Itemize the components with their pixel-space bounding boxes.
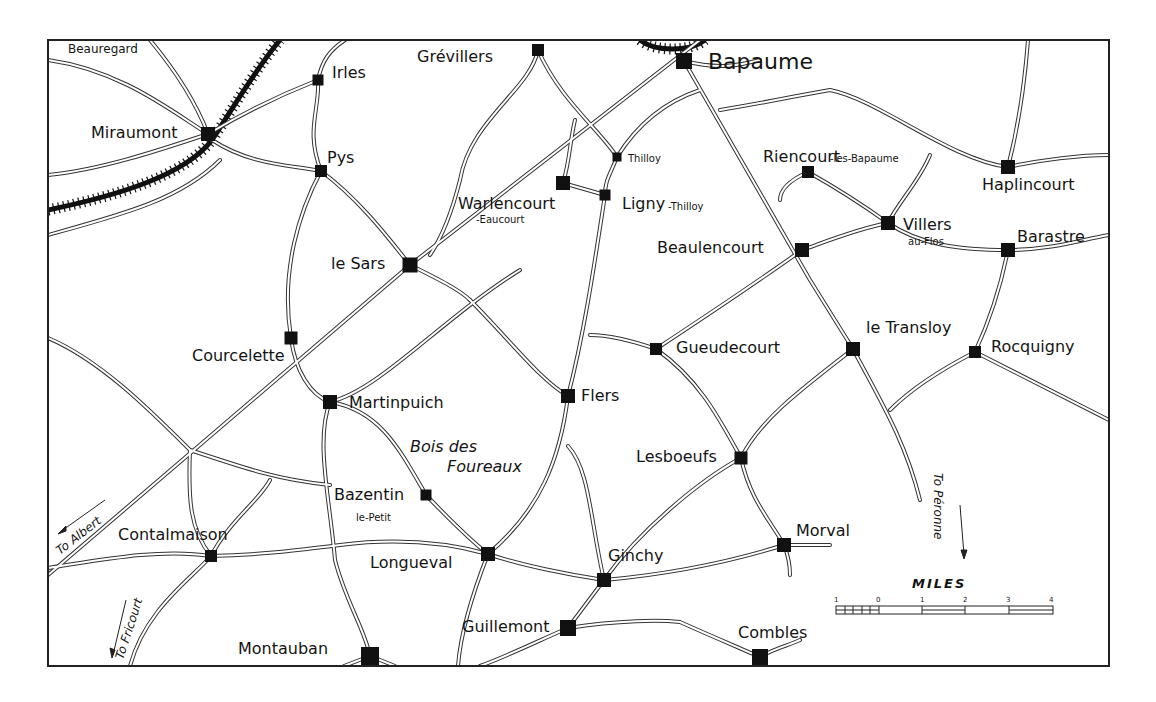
- town-marker-morval: [777, 538, 791, 552]
- scale-tick-2: 2: [963, 596, 967, 604]
- map-canvas: BapaumeGrévillersIrlesMiraumontPysThillo…: [0, 0, 1156, 702]
- town-marker-miraumont: [201, 127, 215, 141]
- road-36: [590, 335, 656, 349]
- scale-title: MILES: [912, 576, 966, 591]
- town-label-villers: Villers: [903, 215, 952, 234]
- town-marker-irles: [313, 75, 324, 86]
- to-fricourt-label: To Fricourt: [113, 595, 146, 661]
- road-6: [212, 140, 321, 171]
- town-label-le-transloy: le Transloy: [866, 318, 951, 337]
- road-44: [330, 402, 488, 554]
- town-marker-beaulencourt: [795, 243, 809, 257]
- town-label-combles: Combles: [738, 623, 807, 642]
- town-marker-haplincourt: [1001, 160, 1015, 174]
- road-fill-13: [470, 300, 568, 396]
- town-marker-thilloy: [613, 153, 622, 162]
- road-56: [130, 556, 211, 666]
- town-sublabel-ligny: -Thilloy: [668, 201, 704, 212]
- town-sublabel-riencourt: -les-Bapaume: [830, 153, 899, 164]
- town-label-haplincourt: Haplincourt: [982, 175, 1075, 194]
- road-49: [458, 554, 488, 666]
- town-label-miraumont: Miraumont: [91, 123, 178, 142]
- town-label-morval: Morval: [796, 521, 850, 540]
- town-label-warlencourt: Warlencourt: [458, 194, 555, 213]
- town-label-gueudecourt: Gueudecourt: [676, 338, 780, 357]
- town-sublabel-bazentin: le-Petit: [356, 512, 391, 523]
- town-label-contalmaison: Contalmaison: [118, 525, 228, 544]
- town-marker-ligny: [600, 190, 611, 201]
- town-label-longueval: Longueval: [370, 553, 452, 572]
- town-label-guillemont: Guillemont: [462, 617, 550, 636]
- town-marker-guillemont: [560, 620, 576, 636]
- town-marker-martinpuich: [323, 395, 337, 409]
- road-fill-37: [656, 349, 741, 458]
- town-label-beaulencourt: Beaulencourt: [657, 238, 764, 257]
- road-fill-21: [684, 61, 920, 500]
- town-label-irles: Irles: [332, 63, 366, 82]
- road-fill-31: [656, 250, 802, 349]
- arrow-to-peronne: [960, 505, 964, 555]
- road-37: [656, 349, 741, 458]
- scale-bar: MILES 1 0 1 2 3 4: [834, 576, 1054, 614]
- town-label-grevillers: Grévillers: [417, 47, 493, 66]
- road-47: [568, 446, 604, 580]
- town-marker-riencourt: [802, 166, 814, 178]
- town-marker-villers: [881, 216, 895, 230]
- road-1: [150, 40, 208, 134]
- beauregard-label: Beauregard: [68, 42, 138, 56]
- town-marker-flers: [561, 389, 575, 403]
- town-label-bazentin: Bazentin: [334, 485, 404, 504]
- town-label-courcelette: Courcelette: [192, 346, 285, 365]
- road-48: [488, 554, 604, 580]
- town-label-le-sars: le Sars: [331, 254, 385, 273]
- town-marker-ginchy: [597, 573, 611, 587]
- town-marker-rocquigny: [969, 346, 981, 358]
- town-marker-gueudecourt: [650, 343, 662, 355]
- road-34: [890, 352, 975, 410]
- road-fill-52: [568, 621, 760, 657]
- town-label-ligny: Ligny: [622, 194, 665, 213]
- town-marker-barastre: [1001, 243, 1015, 257]
- road-52: [568, 621, 760, 657]
- town-marker-longueval: [481, 547, 495, 561]
- town-label-riencourt: Riencourt: [763, 147, 840, 166]
- road-fill-20: [617, 90, 700, 157]
- town-marker-contalmaison: [205, 550, 217, 562]
- town-marker-le-transloy: [846, 342, 860, 356]
- scale-tick-0: 0: [876, 596, 880, 604]
- road-fill-33: [975, 352, 1109, 420]
- scale-tick-1-left: 1: [834, 596, 838, 604]
- town-marker-grevillers: [532, 44, 544, 56]
- town-marker-montauban: [361, 647, 379, 665]
- road-fill-35: [741, 349, 853, 458]
- town-marker-combles: [752, 649, 768, 665]
- bois-des-foureaux-label-2: Foureaux: [447, 457, 523, 476]
- town-label-thilloy: Thilloy: [627, 153, 661, 164]
- road-fill-17: [563, 120, 575, 183]
- arrowhead-peronne-icon: [961, 550, 967, 559]
- arrowhead-albert-icon: [58, 526, 66, 534]
- scale-tick-4: 4: [1049, 596, 1054, 604]
- to-peronne-label: To Péronne: [931, 473, 945, 540]
- town-marker-pys: [315, 165, 327, 177]
- road-25: [1008, 40, 1028, 167]
- town-label-ginchy: Ginchy: [608, 546, 663, 565]
- road-fill-38: [741, 458, 790, 575]
- road-24: [1008, 155, 1109, 167]
- town-label-montauban: Montauban: [238, 639, 328, 658]
- town-label-barastre: Barastre: [1017, 227, 1085, 246]
- annotations-layer: BeauregardBois desFoureauxTo AlbertTo Fr…: [53, 42, 945, 661]
- road-8: [321, 171, 410, 265]
- town-label-bapaume: Bapaume: [708, 49, 813, 74]
- road-2: [208, 80, 318, 134]
- town-sublabel-villers: au-Flos: [908, 236, 944, 247]
- scale-tick-3: 3: [1006, 596, 1010, 604]
- road-45: [324, 402, 370, 656]
- town-label-flers: Flers: [581, 386, 619, 405]
- town-marker-courcelette: [285, 332, 298, 345]
- road-fill-43: [330, 270, 520, 402]
- road-35: [741, 349, 853, 458]
- road-20: [617, 90, 700, 157]
- road-fill-15: [538, 50, 617, 157]
- road-fill-1: [150, 40, 208, 134]
